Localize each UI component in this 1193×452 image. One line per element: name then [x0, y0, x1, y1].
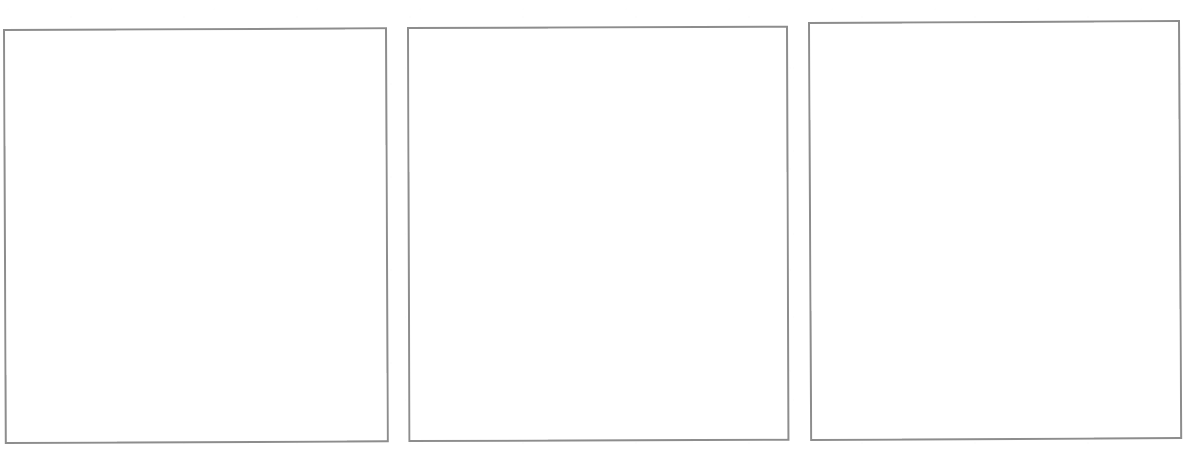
scanned-page [0, 0, 1193, 452]
blank-frame-2[interactable] [407, 26, 789, 442]
blank-frame-1[interactable] [3, 27, 389, 444]
blank-frame-3[interactable] [808, 20, 1182, 441]
